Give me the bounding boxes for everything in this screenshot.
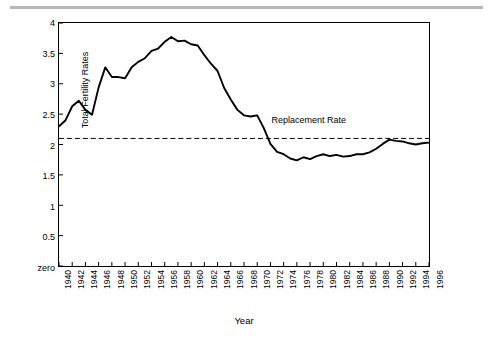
y-tick-label: 0.5 xyxy=(15,232,55,242)
y-tick-label: 1 xyxy=(15,202,55,212)
x-tick-label: 1966 xyxy=(235,270,245,289)
x-tick-label: 1970 xyxy=(262,270,272,289)
x-tick-label: 1982 xyxy=(342,270,352,289)
x-tick-label: 1954 xyxy=(156,270,166,289)
y-tick-label: zero xyxy=(15,263,55,273)
y-axis-title: Total Fertility Rates xyxy=(80,20,90,160)
chart-plot-frame: Total Fertility Rates zero0.511.522.533.… xyxy=(58,22,430,267)
x-tick-label: 1990 xyxy=(395,270,405,289)
x-tick-label: 1972 xyxy=(275,270,285,289)
x-tick-label: 1968 xyxy=(249,270,259,289)
y-tick-label: 2.5 xyxy=(15,110,55,120)
y-axis-tick-marks xyxy=(59,23,63,266)
x-tick-label: 1976 xyxy=(302,270,312,289)
x-axis-tick-marks xyxy=(59,262,429,266)
top-divider xyxy=(10,6,483,9)
fertility-line-chart xyxy=(59,23,429,266)
x-tick-label: 1980 xyxy=(328,270,338,289)
x-tick-label: 1964 xyxy=(222,270,232,289)
x-tick-label: 1946 xyxy=(102,270,112,289)
fertility-rate-line xyxy=(59,37,429,160)
x-tick-label: 1962 xyxy=(209,270,219,289)
x-tick-label: 1952 xyxy=(142,270,152,289)
x-tick-label: 1974 xyxy=(288,270,298,289)
x-tick-label: 1992 xyxy=(408,270,418,289)
chart-page: Total Fertility Rates zero0.511.522.533.… xyxy=(0,0,493,338)
x-tick-label: 1942 xyxy=(76,270,86,289)
x-tick-label: 1956 xyxy=(169,270,179,289)
x-tick-label: 1948 xyxy=(116,270,126,289)
x-tick-label: 1984 xyxy=(355,270,365,289)
y-tick-label: 3 xyxy=(15,79,55,89)
x-tick-label: 1994 xyxy=(421,270,431,289)
x-tick-label: 1940 xyxy=(63,270,73,289)
y-tick-label: 1.5 xyxy=(15,171,55,181)
y-tick-label: 2 xyxy=(15,141,55,151)
x-tick-label: 1958 xyxy=(182,270,192,289)
x-tick-label: 1960 xyxy=(195,270,205,289)
y-tick-label: 3.5 xyxy=(15,49,55,59)
x-tick-label: 1988 xyxy=(381,270,391,289)
y-tick-label: 4 xyxy=(15,18,55,28)
x-tick-label: 1944 xyxy=(89,270,99,289)
x-tick-label: 1950 xyxy=(129,270,139,289)
replacement-rate-label: Replacement Rate xyxy=(272,115,347,125)
x-tick-label: 1978 xyxy=(315,270,325,289)
x-tick-label: 1986 xyxy=(368,270,378,289)
x-axis-title: Year xyxy=(58,315,430,326)
x-tick-label: 1996 xyxy=(435,270,445,289)
